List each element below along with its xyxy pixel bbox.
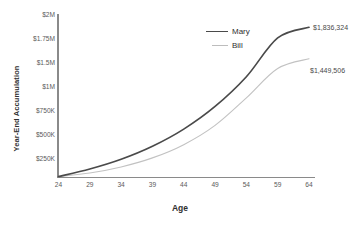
legend-swatch-mary-icon <box>206 31 228 33</box>
data-label-mary: $1,836,324 <box>313 24 348 31</box>
legend-label-bill: Bill <box>232 41 243 50</box>
x-axis-title: Age <box>0 203 360 213</box>
legend-swatch-bill-icon <box>212 45 228 46</box>
data-label-bill: $1,449,506 <box>310 67 345 74</box>
legend-item-bill: Bill <box>206 41 243 50</box>
legend-label-mary: Mary <box>232 27 250 36</box>
series-line-mary <box>59 27 310 176</box>
series-line-bill <box>59 59 310 177</box>
legend-item-mary: Mary <box>206 27 250 36</box>
plot-area <box>0 0 360 230</box>
chart-container: Year-End Accumulation $2M$1.75M$1.5M$1M$… <box>0 0 360 230</box>
